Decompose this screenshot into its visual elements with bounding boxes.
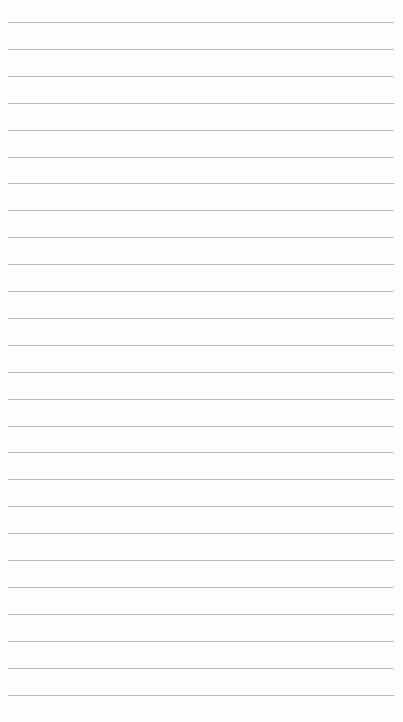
ruled-line [8, 479, 394, 480]
ruled-line [8, 614, 394, 615]
ruled-line [8, 506, 394, 507]
ruled-line [8, 264, 394, 265]
ruled-line [8, 22, 394, 23]
ruled-line [8, 157, 394, 158]
ruled-line [8, 587, 394, 588]
ruled-line [8, 345, 394, 346]
ruled-line [8, 318, 394, 319]
ruled-line [8, 426, 394, 427]
ruled-line [8, 130, 394, 131]
ruled-line [8, 641, 394, 642]
ruled-line [8, 668, 394, 669]
lined-paper-page [0, 0, 403, 722]
ruled-line [8, 452, 394, 453]
ruled-line [8, 560, 394, 561]
ruled-line [8, 399, 394, 400]
ruled-line [8, 210, 394, 211]
ruled-line [8, 533, 394, 534]
ruled-line [8, 49, 394, 50]
ruled-line [8, 183, 394, 184]
ruled-line [8, 103, 394, 104]
ruled-line [8, 291, 394, 292]
ruled-line [8, 76, 394, 77]
ruled-line [8, 372, 394, 373]
ruled-line [8, 237, 394, 238]
ruled-line [8, 695, 394, 696]
